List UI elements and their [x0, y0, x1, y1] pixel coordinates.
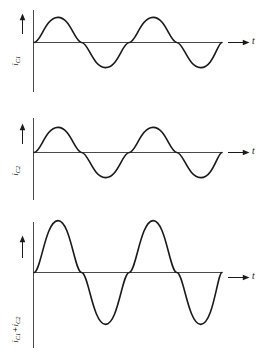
panel-ic1-up-arrow	[20, 14, 26, 35]
panel-ic1: iC1 t	[0, 0, 267, 110]
panel-sum-t-arrow	[228, 275, 250, 281]
panel-ic2: iC2 t	[0, 110, 267, 218]
panel-sum-up-arrow	[20, 236, 26, 259]
panel-ic1-plot	[0, 0, 267, 110]
panel-ic2-t-label: t	[252, 147, 255, 157]
panel-sum-y-label-main2: i	[10, 324, 20, 327]
panel-sum-y-label-sub: C1	[14, 333, 21, 340]
panel-sum-y-label-plus: +	[10, 327, 20, 333]
panel-ic2-y-label-sub: C2	[14, 166, 21, 173]
panel-sum-y-label-sub2: C2	[14, 316, 21, 323]
panel-ic1-y-label-main: i	[10, 63, 20, 66]
panel-sum-plot	[0, 218, 267, 360]
panel-ic1-t-arrow	[228, 40, 250, 46]
panel-ic1-t-label: t	[252, 37, 255, 47]
panel-ic1-y-label-sub: C1	[14, 56, 21, 63]
panel-ic2-up-arrow	[20, 124, 26, 145]
waveform-figure: iC1 t iC2 t	[0, 0, 267, 360]
panel-ic1-y-axis-label: iC1	[11, 56, 21, 66]
panel-ic2-t-arrow	[228, 150, 250, 156]
panel-ic2-y-axis-label: iC2	[11, 166, 21, 176]
panel-sum-y-axis-label: iC1+iC2	[11, 316, 21, 342]
panel-ic2-y-label-main: i	[10, 173, 20, 176]
panel-ic2-plot	[0, 110, 267, 218]
panel-sum: iC1+iC2 t	[0, 218, 267, 360]
panel-sum-t-label: t	[252, 272, 255, 282]
panel-sum-y-label-main: i	[10, 340, 20, 343]
